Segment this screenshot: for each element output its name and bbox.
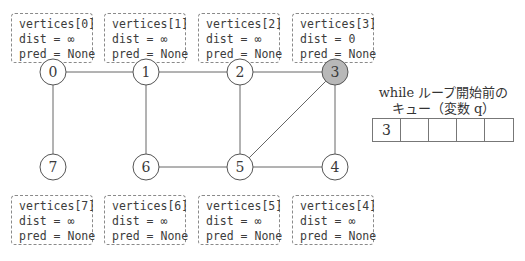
queue: 3	[372, 118, 514, 142]
queue-title-line2: キュー（変数 q）	[372, 100, 515, 117]
node-label: 1	[142, 64, 151, 80]
queue-title-line1: while ループ開始前の	[372, 84, 515, 101]
queue-cell: 3	[373, 119, 401, 141]
edge-3-5	[249, 81, 326, 158]
node-label: 5	[236, 159, 245, 175]
queue-cell	[485, 119, 513, 141]
node-label: 7	[49, 159, 58, 175]
queue-cell	[457, 119, 485, 141]
node-label: 3	[331, 64, 340, 80]
node-label: 0	[49, 64, 58, 80]
queue-cell	[429, 119, 457, 141]
node-label: 2	[236, 64, 245, 80]
node-label: 4	[331, 159, 340, 175]
queue-cell	[401, 119, 429, 141]
node-label: 6	[142, 159, 151, 175]
